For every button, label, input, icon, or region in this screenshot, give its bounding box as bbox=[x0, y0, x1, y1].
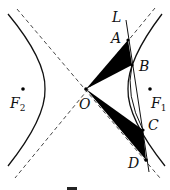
focus-F2 bbox=[21, 87, 25, 91]
label-O: O bbox=[79, 96, 91, 112]
label-L: L bbox=[111, 9, 121, 25]
caption-fragment bbox=[67, 187, 77, 190]
point-A bbox=[126, 38, 129, 41]
asymptote-1 bbox=[17, 9, 160, 178]
label-F1: F1 bbox=[150, 95, 166, 113]
point-C bbox=[141, 128, 144, 131]
label-A: A bbox=[109, 30, 121, 46]
asymptote-2 bbox=[15, 8, 155, 178]
label-D: D bbox=[127, 155, 139, 171]
label-F2: F2 bbox=[9, 95, 25, 113]
hyperbola-left-branch bbox=[8, 14, 45, 166]
label-B: B bbox=[138, 58, 149, 74]
point-D bbox=[144, 158, 148, 162]
triangle-OAB bbox=[86, 40, 132, 89]
label-C: C bbox=[148, 117, 159, 133]
point-B bbox=[130, 63, 133, 66]
focus-F1 bbox=[148, 87, 152, 91]
point-O bbox=[84, 87, 88, 91]
hyperbola-diagram: L A B O C D F1 F2 bbox=[0, 0, 170, 190]
